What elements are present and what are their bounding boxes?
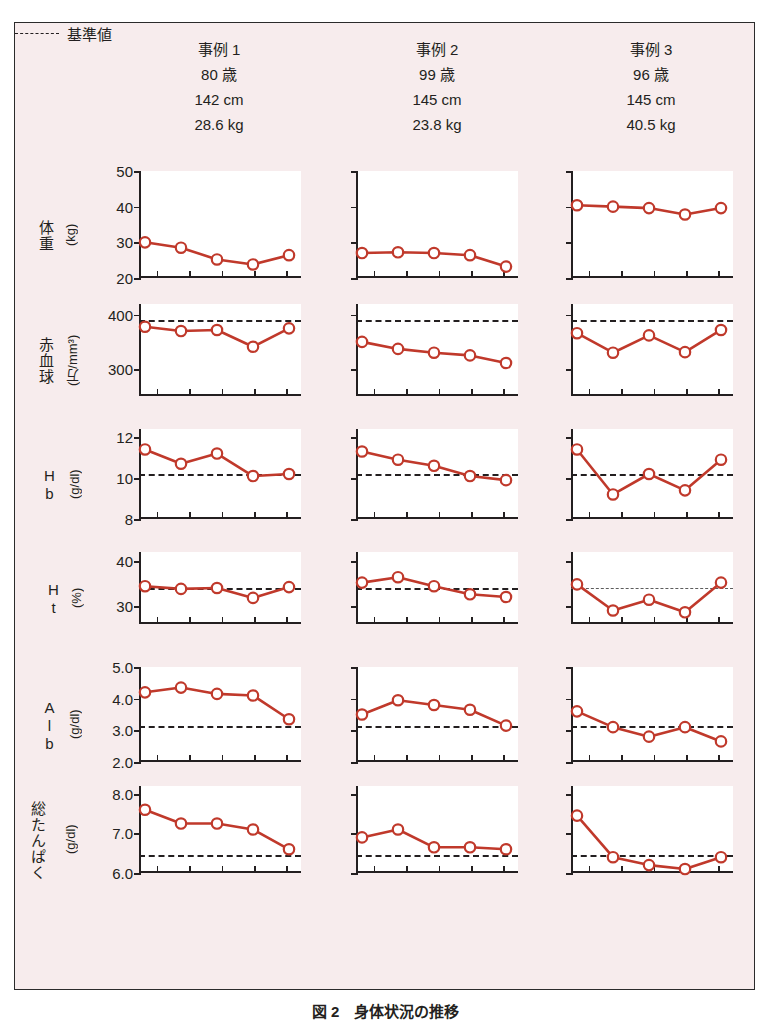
y-tick-label: 400 bbox=[108, 306, 133, 323]
data-point bbox=[465, 250, 475, 260]
case-height: 145 cm bbox=[337, 87, 537, 112]
y-tick-label: 40 bbox=[116, 553, 133, 570]
data-point bbox=[357, 337, 367, 347]
data-point bbox=[608, 852, 618, 862]
y-tick bbox=[351, 519, 358, 521]
data-point bbox=[140, 581, 150, 591]
data-series-1 bbox=[139, 429, 301, 519]
data-series-3 bbox=[571, 667, 733, 762]
data-point bbox=[716, 736, 726, 746]
chart-panel-r1-c1: 20304050 bbox=[139, 171, 301, 278]
case-header-1: 事例 1 80 歳 142 cm 28.6 kg bbox=[119, 37, 319, 137]
data-point bbox=[644, 860, 654, 870]
data-series-2 bbox=[356, 786, 518, 873]
data-point bbox=[393, 824, 403, 834]
data-point bbox=[465, 350, 475, 360]
case-header-3: 事例 3 96 歳 145 cm 40.5 kg bbox=[551, 37, 751, 137]
data-point bbox=[716, 454, 726, 464]
row-label-3: Hb bbox=[41, 433, 58, 537]
data-point bbox=[429, 348, 439, 358]
y-tick-label: 50 bbox=[116, 163, 133, 180]
chart-panel-r5-c2 bbox=[356, 667, 518, 762]
data-point bbox=[140, 237, 150, 247]
data-point bbox=[465, 589, 475, 599]
data-point bbox=[644, 731, 654, 741]
data-point bbox=[284, 714, 294, 724]
data-point bbox=[501, 720, 511, 730]
data-point bbox=[357, 709, 367, 719]
data-series-1 bbox=[139, 786, 301, 873]
y-tick-label: 3.0 bbox=[112, 722, 133, 739]
data-series-1 bbox=[139, 171, 301, 278]
row-unit-2: (万/mm³) bbox=[63, 306, 82, 414]
data-point bbox=[284, 844, 294, 854]
data-point bbox=[608, 348, 618, 358]
row-unit-1: (kg) bbox=[63, 173, 78, 296]
chart-panel-r2-c3 bbox=[571, 304, 733, 396]
data-point bbox=[429, 461, 439, 471]
y-tick bbox=[134, 278, 141, 280]
data-point bbox=[608, 605, 618, 615]
data-series-2 bbox=[356, 304, 518, 396]
data-point bbox=[608, 201, 618, 211]
data-point bbox=[212, 448, 222, 458]
row-label-4: Ht bbox=[45, 556, 62, 642]
data-point bbox=[572, 328, 582, 338]
case-age: 96 歳 bbox=[551, 62, 751, 87]
data-point bbox=[644, 595, 654, 605]
data-point bbox=[572, 579, 582, 589]
data-point bbox=[572, 810, 582, 820]
y-tick bbox=[351, 762, 358, 764]
y-tick-label: 8.0 bbox=[112, 785, 133, 802]
data-series-2 bbox=[356, 171, 518, 278]
data-point bbox=[140, 687, 150, 697]
y-tick-label: 40 bbox=[116, 198, 133, 215]
row-unit-5: (g/dl) bbox=[67, 669, 82, 780]
data-point bbox=[465, 471, 475, 481]
data-series-3 bbox=[571, 786, 733, 873]
y-tick-label: 10 bbox=[116, 470, 133, 487]
data-point bbox=[572, 706, 582, 716]
data-point bbox=[393, 344, 403, 354]
figure-caption: 図 2 身体状況の推移 bbox=[0, 1000, 771, 1021]
data-point bbox=[608, 722, 618, 732]
legend-reference-value: 基準値 bbox=[15, 23, 112, 44]
data-point bbox=[357, 248, 367, 258]
row-unit-6: (g/dl) bbox=[63, 788, 78, 891]
case-title: 事例 3 bbox=[551, 37, 751, 62]
data-point bbox=[212, 325, 222, 335]
data-point bbox=[176, 326, 186, 336]
data-series-2 bbox=[356, 552, 518, 624]
y-tick bbox=[566, 762, 573, 764]
data-point bbox=[176, 682, 186, 692]
data-point bbox=[429, 700, 439, 710]
y-tick bbox=[566, 519, 573, 521]
dashed-line-icon bbox=[15, 33, 59, 34]
data-point bbox=[176, 459, 186, 469]
case-weight: 40.5 kg bbox=[551, 112, 751, 137]
y-tick bbox=[134, 762, 141, 764]
case-weight: 23.8 kg bbox=[337, 112, 537, 137]
data-point bbox=[501, 475, 511, 485]
data-point bbox=[248, 342, 258, 352]
data-series-3 bbox=[571, 429, 733, 519]
data-series-3 bbox=[571, 552, 733, 624]
chart-panel-r4-c3 bbox=[571, 552, 733, 624]
data-point bbox=[176, 818, 186, 828]
data-point bbox=[680, 209, 690, 219]
case-height: 142 cm bbox=[119, 87, 319, 112]
chart-panel-r5-c3 bbox=[571, 667, 733, 762]
case-weight: 28.6 kg bbox=[119, 112, 319, 137]
chart-panel-r2-c2 bbox=[356, 304, 518, 396]
y-tick bbox=[351, 278, 358, 280]
data-point bbox=[465, 842, 475, 852]
chart-panel-r5-c1: 2.03.04.05.0 bbox=[139, 667, 301, 762]
data-point bbox=[501, 844, 511, 854]
data-point bbox=[393, 695, 403, 705]
case-age: 80 歳 bbox=[119, 62, 319, 87]
data-point bbox=[501, 592, 511, 602]
data-point bbox=[140, 322, 150, 332]
chart-panel-r4-c1: 3040 bbox=[139, 552, 301, 624]
data-point bbox=[357, 832, 367, 842]
case-height: 145 cm bbox=[551, 87, 751, 112]
